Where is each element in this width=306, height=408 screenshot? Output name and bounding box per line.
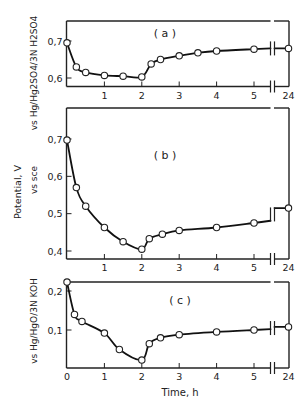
x-tick-label: 3 xyxy=(176,371,182,382)
shared-y-axis-label: Potential, V xyxy=(12,164,23,219)
data-point xyxy=(64,137,70,143)
data-point xyxy=(101,224,107,230)
x-tick-label: 4 xyxy=(214,90,220,101)
x-tick-label: 5 xyxy=(251,371,257,382)
x-tick-label: 3 xyxy=(176,262,182,273)
data-curve xyxy=(67,43,271,78)
panel-b-y-axis-label: vs sce xyxy=(29,166,39,195)
data-point xyxy=(159,231,165,237)
x-tick-label: 4 xyxy=(214,371,220,382)
data-point xyxy=(157,56,163,62)
data-point xyxy=(285,205,291,211)
panel-label: ( a ) xyxy=(154,27,176,40)
x-tick-label: 2 xyxy=(139,90,145,101)
x-tick-label: 0 xyxy=(64,371,70,382)
data-point xyxy=(176,227,182,233)
y-tick-label: 0,6 xyxy=(47,171,62,182)
data-point xyxy=(139,357,145,363)
data-point xyxy=(139,74,145,80)
data-point xyxy=(285,45,291,51)
data-point xyxy=(213,48,219,54)
data-point xyxy=(146,340,152,346)
data-point xyxy=(176,53,182,59)
data-point xyxy=(120,238,126,244)
data-point xyxy=(79,318,85,324)
x-tick-label: 1 xyxy=(101,262,107,273)
data-point xyxy=(251,46,257,52)
panel-a: 0,70,61234524( a ) xyxy=(47,21,294,101)
x-tick-label: 1 xyxy=(101,90,107,101)
panel-label: ( b ) xyxy=(154,149,177,162)
x-tick-label: 24 xyxy=(282,371,294,382)
y-tick-label: 0,2 xyxy=(47,286,62,297)
data-point xyxy=(146,235,152,241)
panel-b: 0,70,60,50,41234524( b ) xyxy=(47,108,294,273)
data-point xyxy=(64,279,70,285)
data-point xyxy=(71,311,77,317)
x-tick-label: 24 xyxy=(282,262,294,273)
x-tick-label: 2 xyxy=(139,262,145,273)
y-tick-label: 0,1 xyxy=(47,325,62,336)
data-point xyxy=(157,335,163,341)
x-axis-label: Time, h xyxy=(160,387,198,398)
data-point xyxy=(139,246,145,252)
data-point xyxy=(251,220,257,226)
data-point xyxy=(73,184,79,190)
data-point xyxy=(101,330,107,336)
potential-vs-time-figure: 0,70,61234524( a ) 0,70,60,50,41234524( … xyxy=(0,0,306,408)
data-point xyxy=(213,224,219,230)
data-point xyxy=(285,324,291,330)
data-point xyxy=(83,69,89,75)
y-tick-label: 0,7 xyxy=(47,36,62,47)
y-tick-label: 0,7 xyxy=(47,134,62,145)
x-tick-label: 5 xyxy=(251,262,257,273)
x-tick-label: 1 xyxy=(101,371,107,382)
panel-label: ( c ) xyxy=(169,294,191,307)
y-tick-label: 0,5 xyxy=(47,208,62,219)
y-tick-label: 0,6 xyxy=(47,73,62,84)
data-point xyxy=(101,72,107,78)
data-point xyxy=(148,61,154,67)
y-tick-label: 0,4 xyxy=(47,246,62,257)
x-tick-label: 3 xyxy=(176,90,182,101)
x-tick-label: 4 xyxy=(214,262,220,273)
data-point xyxy=(213,329,219,335)
data-point xyxy=(83,203,89,209)
data-point xyxy=(120,73,126,79)
panel-c-y-axis-label: vs Hg/HgO/3N KOH xyxy=(29,278,39,364)
x-tick-label: 2 xyxy=(139,371,145,382)
data-point xyxy=(176,331,182,337)
data-point xyxy=(116,346,122,352)
data-point xyxy=(73,64,79,70)
data-point xyxy=(64,40,70,46)
data-point xyxy=(195,50,201,56)
panel-a-y-axis-label: vs Hg/Hg2SO4/3N H2SO4 xyxy=(29,15,39,130)
x-tick-label: 24 xyxy=(282,90,294,101)
panel-c: 0,20,101234524( c ) xyxy=(47,279,294,382)
data-point xyxy=(251,327,257,333)
x-tick-label: 5 xyxy=(251,90,257,101)
